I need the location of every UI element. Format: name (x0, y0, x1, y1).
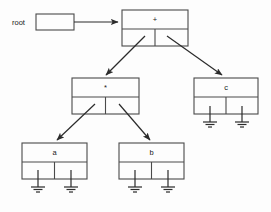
edge-plus-to-c (167, 36, 222, 75)
root-pointer-box (36, 14, 74, 30)
node-b-label: b (149, 148, 153, 157)
node-plus: + (122, 10, 188, 46)
node-a: a (22, 143, 87, 192)
node-star-label: * (104, 83, 107, 92)
diagram-canvas: root + * c (0, 0, 271, 212)
node-star: * (72, 78, 139, 114)
node-plus-label: + (153, 15, 158, 24)
root-pointer-label: root (12, 18, 26, 27)
expression-tree-diagram: root + * c (0, 0, 271, 212)
node-c: c (194, 78, 258, 127)
node-c-label: c (224, 83, 228, 92)
root-pointer-group: root (12, 14, 118, 30)
node-b: b (119, 143, 184, 192)
